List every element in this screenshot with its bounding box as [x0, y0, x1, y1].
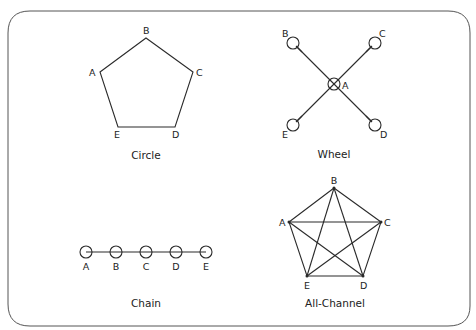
wheel-node-e-label: E: [282, 129, 288, 140]
chain-node-d-label: D: [172, 261, 179, 272]
circle-node-c-label: C: [196, 67, 203, 78]
all-channel-node-d: [362, 275, 365, 278]
circle-edges: [100, 38, 193, 127]
wheel-node-c-label: C: [379, 28, 386, 39]
circle-node-d-label: D: [172, 129, 179, 140]
chain-node-b-label: B: [113, 261, 120, 272]
chain-node-c-label: C: [143, 261, 150, 272]
all-channel-node-b-label: B: [331, 175, 338, 186]
communication-networks-figure: B A C E D Circle B C A E D Wheel A B C D…: [0, 0, 476, 330]
circle-node-b-label: B: [143, 25, 150, 36]
chain-node-e-label: E: [203, 261, 209, 272]
chain-node-a-label: A: [83, 261, 90, 272]
all-channel-node-c: [380, 221, 383, 224]
circle-node-e-label: E: [114, 129, 120, 140]
wheel-node-b-label: B: [282, 28, 289, 39]
chain-caption: Chain: [131, 297, 161, 309]
all-channel-caption: All-Channel: [305, 297, 365, 309]
all-channel-node-e-label: E: [304, 280, 310, 291]
circle-node-a-label: A: [89, 67, 96, 78]
all-channel-node-a: [288, 221, 291, 224]
wheel-node-a-label: A: [342, 80, 349, 91]
all-channel-node-a-label: A: [279, 217, 286, 228]
wheel-caption: Wheel: [318, 148, 351, 160]
all-channel-network: [289, 188, 381, 276]
wheel-node-d-label: D: [380, 129, 387, 140]
chain-network: [80, 246, 212, 258]
all-channel-node-e: [306, 275, 309, 278]
figure-frame: [8, 11, 470, 326]
all-channel-node-c-label: C: [384, 217, 391, 228]
all-channel-node-b: [333, 187, 336, 190]
circle-caption: Circle: [131, 149, 161, 161]
circle-network: [100, 38, 193, 127]
wheel-network: [287, 37, 381, 131]
all-channel-node-d-label: D: [360, 280, 367, 291]
